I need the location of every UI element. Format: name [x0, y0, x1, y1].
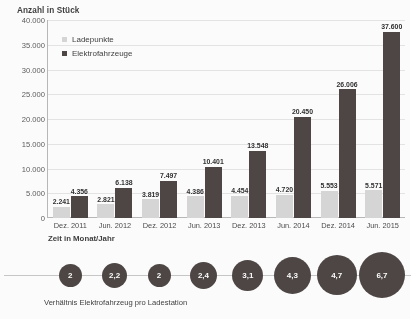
ratio-value-label: 2,4 [198, 271, 209, 280]
x-axis-title: Zeit in Monat/Jahr [48, 234, 115, 243]
ratio-circle[interactable]: 2,4 [190, 262, 217, 289]
bar[interactable]: 4.356 [71, 196, 88, 218]
ratio-cell: 2 [137, 252, 181, 298]
bar[interactable]: 4.454 [231, 196, 248, 218]
y-axis-title: Anzahl in Stück [17, 6, 79, 15]
ratio-value-label: 2 [157, 271, 161, 280]
y-axis-tick-label: 30.000 [3, 65, 45, 74]
bar-group: 5.55326.006 [316, 20, 361, 218]
bar-value-label: 10.401 [203, 158, 224, 165]
bar[interactable]: 3.819 [142, 199, 159, 218]
ratio-circle[interactable]: 4,7 [317, 255, 357, 295]
y-axis-tick-label: 25.000 [3, 90, 45, 99]
bar-group: 2.2414.356 [48, 20, 93, 218]
bar-value-label: 4.356 [71, 188, 88, 195]
bar-value-label: 4.454 [231, 187, 248, 194]
bar-value-label: 4.386 [187, 188, 204, 195]
ratio-value-label: 3,1 [242, 271, 253, 280]
x-axis-tick-label: Jun. 2015 [360, 221, 405, 230]
bar[interactable]: 37.600 [383, 32, 400, 218]
ratio-cell: 3,1 [226, 252, 270, 298]
bar[interactable]: 2.821 [97, 204, 114, 218]
bar[interactable]: 10.401 [205, 167, 222, 218]
y-axis-tick-label: 40.000 [3, 16, 45, 25]
x-axis-tick-label: Dez. 2013 [227, 221, 272, 230]
bar[interactable]: 4.720 [276, 195, 293, 218]
ratio-circle[interactable]: 2 [59, 264, 82, 287]
ratio-circle[interactable]: 2,2 [102, 263, 127, 288]
bar[interactable]: 26.006 [339, 89, 356, 218]
y-axis-tick-label: 10.000 [3, 164, 45, 173]
bar-value-label: 2.821 [97, 196, 114, 203]
x-axis-tick-label: Jun. 2013 [182, 221, 227, 230]
ratio-value-label: 2 [68, 271, 72, 280]
bar[interactable]: 6.138 [115, 188, 132, 218]
x-axis-tick-label: Jun. 2012 [93, 221, 138, 230]
bar-groups: 2.2414.3562.8216.1383.8197.4974.38610.40… [48, 20, 405, 218]
bar-value-label: 20.450 [292, 108, 313, 115]
ratio-cell: 6,7 [359, 252, 405, 298]
bar-value-label: 5.553 [320, 182, 337, 189]
bar[interactable]: 20.450 [294, 117, 311, 218]
y-axis-tick-label: 15.000 [3, 139, 45, 148]
y-axis-tick-label: 35.000 [3, 40, 45, 49]
x-axis-tick-labels: Dez. 2011Jun. 2012Dez. 2012Jun. 2013Dez.… [48, 221, 405, 230]
bar-value-label: 3.819 [142, 191, 159, 198]
bar-value-label: 4.720 [276, 186, 293, 193]
ratio-cell: 2 [48, 252, 92, 298]
ratio-value-label: 6,7 [376, 271, 387, 280]
bar-value-label: 37.600 [381, 23, 402, 30]
ratio-caption: Verhältnis Elektrofahrzeug pro Ladestati… [44, 298, 187, 307]
x-axis-tick-label: Dez. 2011 [48, 221, 93, 230]
bar[interactable]: 4.386 [187, 196, 204, 218]
x-axis-tick-label: Dez. 2012 [137, 221, 182, 230]
bar-value-label: 5.571 [365, 182, 382, 189]
ratio-value-label: 2,2 [109, 271, 120, 280]
ratio-circle[interactable]: 2 [148, 264, 171, 287]
y-axis-tick-label: 20.000 [3, 115, 45, 124]
x-axis-tick-label: Dez. 2014 [316, 221, 361, 230]
bar-group: 4.38610.401 [182, 20, 227, 218]
bar-value-label: 13.548 [247, 142, 268, 149]
ratio-circle[interactable]: 4,3 [274, 257, 311, 294]
ratio-cell: 4,7 [315, 252, 359, 298]
bar[interactable]: 7.497 [160, 181, 177, 218]
bar-value-label: 26.006 [337, 81, 358, 88]
ratio-circle-row: 22,222,43,14,34,76,7 [48, 252, 405, 298]
bar-value-label: 7.497 [160, 172, 177, 179]
bar-group: 2.8216.138 [93, 20, 138, 218]
bar[interactable]: 2.241 [53, 207, 70, 218]
y-axis-tick-labels: 40.00035.00030.00025.00020.00015.00010.0… [0, 20, 45, 218]
y-axis-tick-label: 5.000 [3, 189, 45, 198]
ratio-cell: 4,3 [270, 252, 314, 298]
bar-group: 4.72020.450 [271, 20, 316, 218]
bar-group: 3.8197.497 [137, 20, 182, 218]
y-axis-tick-label: 0 [3, 214, 45, 223]
ratio-circle[interactable]: 6,7 [359, 252, 405, 298]
ratio-cell: 2,4 [181, 252, 225, 298]
ratio-cell: 2,2 [92, 252, 136, 298]
ratio-value-label: 4,7 [331, 271, 342, 280]
bar-group: 5.57137.600 [360, 20, 405, 218]
ratio-circle-band: 22,222,43,14,34,76,7 [48, 252, 405, 298]
bar[interactable]: 13.548 [249, 151, 266, 218]
x-axis-tick-label: Jun. 2014 [271, 221, 316, 230]
bar-group: 4.45413.548 [227, 20, 272, 218]
ratio-circle[interactable]: 3,1 [232, 260, 263, 291]
ratio-value-label: 4,3 [287, 271, 298, 280]
bar[interactable]: 5.571 [365, 190, 382, 218]
bar-value-label: 6.138 [115, 179, 132, 186]
bar[interactable]: 5.553 [321, 191, 338, 218]
bar-value-label: 2.241 [53, 198, 70, 205]
